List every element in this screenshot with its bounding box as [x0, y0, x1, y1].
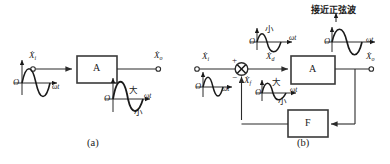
panel-b-output-terminal	[369, 67, 374, 72]
panel-b-feedback-block-label: F	[305, 118, 311, 128]
panel-a-output-wave-small-label: 小	[134, 108, 143, 117]
panel-b-netinput-wave-small-label: 小	[265, 25, 274, 34]
panel-b-feedback-wave-big-label: 大	[272, 78, 281, 87]
panel-b-output-wave-note: 接近正弦波	[311, 6, 356, 15]
panel-b-summing-minus-sign: −	[232, 73, 237, 82]
panel-a-amplifier-label: A	[93, 63, 100, 73]
panel-a-input-wave-axis-label: ωt	[52, 83, 59, 91]
panel-b-output-wave-origin: O	[324, 37, 330, 46]
panel-a-output-terminal	[156, 67, 161, 72]
panel-b-input-terminal	[195, 67, 200, 72]
panel-a-caption: (a)	[87, 138, 99, 149]
panel-b-feedback-wave-origin: O	[255, 88, 261, 97]
panel-b-amplifier-label: A	[309, 64, 316, 74]
panel-b-output-wave-axis-label: ωt	[366, 36, 373, 44]
panel-b-caption: (b)	[297, 138, 309, 149]
panel-b-summing-plus-sign: +	[232, 56, 237, 65]
panel-a-input-wave-origin: O	[13, 78, 19, 87]
panel-b-net-input-signal-phasor-dot: ·	[268, 49, 271, 57]
panel-a-output-signal-phasor-dot: ·	[156, 48, 159, 56]
panel-b-netinput-wave-axis-label: ωt	[289, 34, 296, 42]
panel-b-input-signal-phasor-dot: ·	[204, 49, 207, 57]
panel-b-output-signal-phasor-dot: ·	[368, 49, 371, 57]
panel-b-input-wave-axis-label: ωt	[222, 85, 229, 93]
panel-b-feedback-wave-axis-label: ωt	[290, 86, 297, 94]
panel-a-output-wave-big-label: 大	[129, 86, 138, 95]
panel-a-output-wave-axis-label: ωt	[144, 92, 151, 100]
panel-b-input-wave-origin: O	[195, 82, 201, 91]
panel-b-feedback-signal-phasor-dot: ·	[246, 73, 249, 81]
figure-canvas: Xi · Xo · A O ωt O ωt 大 小 (a) Xi · + − X…	[0, 0, 390, 164]
panel-b-netinput-wave-origin: O	[249, 37, 255, 46]
panel-b-feedback-wave-small-label: 小	[278, 97, 287, 106]
panel-a-input-signal-phasor-dot: ·	[31, 48, 34, 56]
panel-a-output-wave-origin: O	[104, 94, 110, 103]
